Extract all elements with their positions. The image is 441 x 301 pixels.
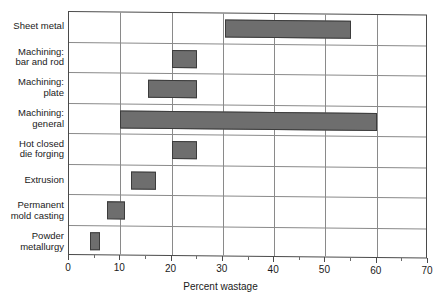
y-axis-category-labels: Sheet metalMachining:bar and rodMachinin… [0, 11, 66, 255]
category-label-line: Extrusion [24, 175, 64, 186]
x-tick-label-50: 50 [311, 264, 337, 275]
x-tick-label-60: 60 [363, 265, 389, 276]
x-tick-70 [427, 258, 428, 263]
x-tick-label-30: 30 [209, 263, 235, 274]
row-band [69, 165, 426, 199]
x-tick-label-20: 20 [158, 263, 184, 274]
bar-machining-bar-and-rod [172, 50, 198, 68]
x-tick-label-40: 40 [260, 264, 286, 275]
wastage-bar-chart: Sheet metalMachining:bar and rodMachinin… [0, 0, 441, 301]
category-label-line: metallurgy [20, 242, 64, 253]
category-label-line: Powder [20, 231, 64, 242]
category-label-line: die forging [19, 149, 64, 160]
bar-sheet-metal [225, 20, 351, 39]
category-label-line: Machining: [18, 108, 64, 119]
category-label-line: mold casting [11, 211, 64, 222]
row-band [69, 73, 426, 107]
bar-hot-closed-die-forging [172, 141, 198, 159]
category-label-line: bar and rod [15, 57, 64, 68]
row-band [69, 43, 426, 77]
x-tick-label-70: 70 [414, 265, 440, 276]
category-label-line: Sheet metal [13, 21, 64, 32]
plot-area [68, 11, 427, 258]
x-axis-title: Percent wastage [0, 281, 441, 292]
category-label-powder-metallurgy: Powdermetallurgy [20, 231, 64, 252]
row-band [69, 134, 426, 168]
bar-machining-general [120, 110, 376, 130]
category-label-hot-closed-die-forging: Hot closeddie forging [19, 139, 64, 160]
category-label-line: general [18, 119, 64, 130]
x-tick-label-0: 0 [55, 262, 81, 273]
category-label-machining-general: Machining:general [18, 108, 64, 129]
bar-machining-plate [148, 80, 197, 98]
category-label-machining-bar-and-rod: Machining:bar and rod [15, 47, 64, 68]
bar-permanent-mold-casting [107, 202, 125, 220]
row-band [69, 226, 426, 260]
category-label-machining-plate: Machining:plate [18, 77, 64, 98]
row-bands-layer [69, 12, 426, 15]
bar-powder-metallurgy [90, 232, 100, 250]
category-label-sheet-metal: Sheet metal [13, 21, 64, 32]
x-tick-label-10: 10 [106, 262, 132, 273]
bar-extrusion [131, 171, 157, 189]
category-label-extrusion: Extrusion [24, 175, 64, 186]
category-label-permanent-mold-casting: Permanentmold casting [11, 200, 64, 221]
category-label-line: plate [18, 88, 64, 99]
